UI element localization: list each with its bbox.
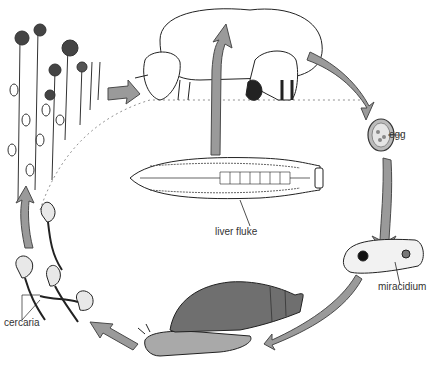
snail-illustration — [138, 282, 303, 356]
egg-label: egg — [389, 130, 406, 140]
liver-fluke-label: liver fluke — [215, 227, 257, 237]
vegetation-illustration — [8, 24, 100, 200]
liver-fluke-illustration — [130, 158, 323, 226]
arrow-sheep-to-egg — [307, 52, 374, 120]
arrow-cercaria-to-vegetation — [16, 186, 34, 248]
cercaria-label: cercaria — [4, 318, 40, 328]
sheep-illustration — [135, 9, 322, 101]
liver-fluke-life-cycle-diagram: egg miracidium cercaria liver fluke — [0, 0, 436, 365]
arrow-snail-to-cercaria — [90, 322, 138, 350]
arrow-vegetation-to-sheep — [108, 80, 140, 104]
miracidium-label: miracidium — [378, 282, 426, 292]
